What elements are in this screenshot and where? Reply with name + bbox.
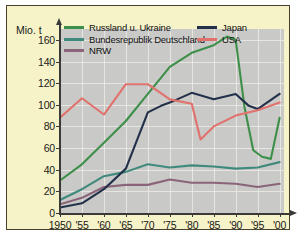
y-axis-tick-mark: [56, 83, 60, 84]
series-line: [60, 162, 280, 200]
x-axis-tick-label: '00: [273, 219, 286, 231]
y-axis-tick-mark: [56, 126, 60, 127]
legend-item-label: Japan: [222, 22, 247, 34]
legend-item-label: USA: [222, 34, 241, 46]
legend-column-right: JapanUSA: [197, 22, 247, 45]
legend-swatch-icon: [64, 26, 84, 29]
legend-item-label: Bundesrepublik Deutschland: [89, 34, 205, 46]
x-axis-tick-label: '55: [75, 219, 88, 231]
x-axis-tick-label: '80: [185, 219, 198, 231]
x-axis-tick-mark: [214, 213, 215, 217]
legend-swatch-icon: [197, 38, 217, 41]
x-axis-tick-mark: [126, 213, 127, 217]
series-line: [60, 84, 280, 139]
x-axis-tick-label: '75: [163, 219, 176, 231]
legend-item-label: NRW: [89, 45, 111, 57]
x-axis-tick-mark: [258, 213, 259, 217]
y-axis-tick-mark: [56, 191, 60, 192]
x-axis-tick-label: '70: [141, 219, 154, 231]
x-axis-tick-mark: [280, 213, 281, 217]
plot-area: [60, 29, 284, 213]
x-axis-tick-label: 1950: [49, 219, 72, 231]
chart-card: Mio. t 020406080100120140160 1950'55'60'…: [6, 5, 290, 230]
y-axis-tick-mark: [56, 105, 60, 106]
y-axis-ticks: 020406080100120140160: [9, 6, 55, 239]
y-axis-tick-label: 140: [13, 57, 55, 67]
x-axis-tick-mark: [82, 213, 83, 217]
x-axis-tick-label: '65: [119, 219, 132, 231]
x-axis-tick-mark: [104, 213, 105, 217]
x-axis-tick-label: '95: [251, 219, 264, 231]
y-axis-tick-label: 80: [13, 121, 55, 131]
legend-item: Japan: [197, 22, 247, 34]
y-axis-tick-label: 160: [13, 35, 55, 45]
legend-swatch-icon: [197, 26, 217, 29]
legend-swatch-icon: [64, 49, 84, 52]
x-axis-line: [59, 213, 291, 215]
legend-column-left: Russland u. UkraineBundesrepublik Deutsc…: [64, 22, 205, 57]
y-axis-arrow-icon: [56, 18, 62, 25]
series-line: [60, 37, 280, 181]
x-axis-ticks: 1950'55'60'65'70'75'80'85'90'95'00: [7, 216, 298, 236]
y-axis-tick-label: 20: [13, 186, 55, 196]
y-axis-tick-mark: [56, 148, 60, 149]
y-axis-line: [59, 24, 61, 215]
legend-swatch-icon: [64, 38, 84, 41]
legend-item: NRW: [64, 45, 205, 57]
x-axis-tick-mark: [60, 213, 61, 217]
y-axis-tick-mark: [56, 40, 60, 41]
legend-item-label: Russland u. Ukraine: [89, 22, 171, 34]
y-axis-tick-mark: [56, 170, 60, 171]
series-line: [60, 93, 280, 208]
x-axis-tick-label: '85: [207, 219, 220, 231]
legend-item: USA: [197, 34, 247, 46]
x-axis-tick-mark: [192, 213, 193, 217]
x-axis-tick-mark: [148, 213, 149, 217]
y-axis-tick-label: 40: [13, 165, 55, 175]
x-axis-tick-label: '90: [229, 219, 242, 231]
x-axis-tick-label: '60: [97, 219, 110, 231]
y-axis-tick-label: 120: [13, 78, 55, 88]
y-axis-tick-label: 60: [13, 143, 55, 153]
legend-item: Bundesrepublik Deutschland: [64, 34, 205, 46]
y-axis-tick-mark: [56, 62, 60, 63]
x-axis-tick-mark: [170, 213, 171, 217]
series-layer: [60, 29, 284, 213]
y-axis-tick-label: 100: [13, 100, 55, 110]
x-axis-tick-mark: [236, 213, 237, 217]
legend-item: Russland u. Ukraine: [64, 22, 205, 34]
chart-figure: Mio. t 020406080100120140160 1950'55'60'…: [0, 0, 298, 239]
